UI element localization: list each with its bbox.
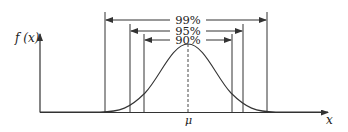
bell-curve [40, 44, 328, 112]
mean-label: μ [185, 114, 192, 127]
normal-distribution-diagram: f (x) x μ 99% 95% 90% [0, 0, 348, 132]
interval-90-label: 90% [175, 33, 201, 47]
y-axis-label: f (x) [14, 31, 40, 45]
x-axis-label: x [326, 113, 333, 127]
